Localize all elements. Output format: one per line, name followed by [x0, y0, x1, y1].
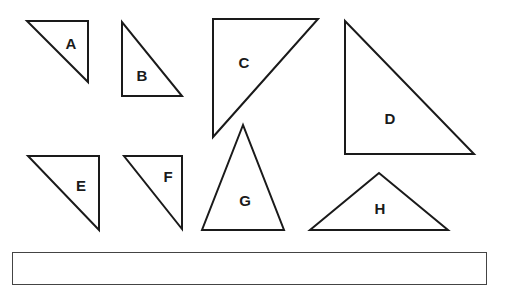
triangle-c-label: C — [239, 54, 250, 71]
triangle-f-label: F — [163, 168, 172, 185]
triangle-a: A — [27, 21, 88, 82]
triangle-a-shape — [27, 21, 88, 82]
triangle-f: F — [124, 156, 182, 229]
answer-box[interactable] — [12, 252, 487, 285]
triangle-c: C — [213, 19, 318, 137]
triangle-g-label: G — [239, 192, 251, 209]
triangle-g-shape — [202, 125, 284, 230]
triangles-diagram: A B C D E F G H — [0, 0, 505, 289]
triangle-g: G — [202, 125, 284, 230]
triangle-a-label: A — [66, 35, 77, 52]
triangle-h-label: H — [375, 200, 386, 217]
triangle-f-shape — [124, 156, 182, 229]
triangle-e-shape — [28, 156, 99, 230]
triangle-h: H — [310, 173, 448, 230]
triangle-d: D — [345, 21, 474, 154]
triangle-b: B — [122, 22, 182, 96]
triangle-e: E — [28, 156, 99, 230]
triangle-b-label: B — [137, 67, 148, 84]
triangle-b-shape — [122, 22, 182, 96]
triangle-d-shape — [345, 21, 474, 154]
triangle-c-shape — [213, 19, 318, 137]
triangle-d-label: D — [385, 110, 396, 127]
triangle-e-label: E — [76, 177, 86, 194]
